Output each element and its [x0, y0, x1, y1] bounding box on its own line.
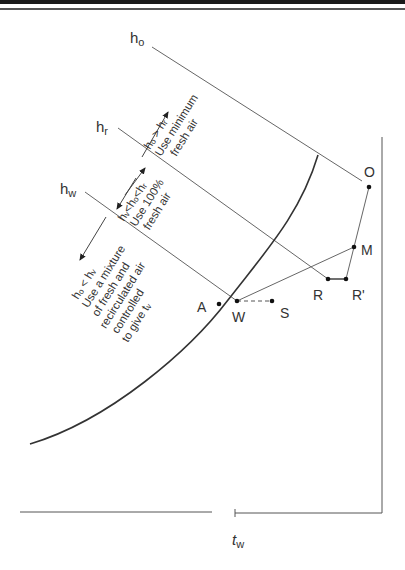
line-o-to-m [354, 187, 369, 247]
point-r [326, 277, 331, 282]
label-t-w: tw [232, 531, 244, 550]
point-o [367, 185, 372, 190]
label-s: S [280, 305, 289, 321]
point-a [217, 302, 222, 307]
point-s [270, 299, 275, 304]
point-r-prime [344, 277, 349, 282]
line-m-to-r-prime [346, 247, 354, 279]
psychrometric-diagram: ho hr hw O M R R' W S A tw hₒ > hᵣ Use m… [0, 0, 405, 570]
region-bottom-text: hₒ < hᵥ Use a mixture of fresh and recir… [64, 236, 171, 344]
label-m: M [361, 242, 373, 258]
label-a: A [197, 299, 207, 315]
arrow-bottom-region [80, 217, 106, 260]
label-r: R [313, 287, 323, 303]
point-m [352, 245, 357, 250]
label-w: W [232, 309, 246, 325]
label-h-w: hw [60, 180, 76, 199]
region-middle-text: hᵥ<hₒ<hᵣ Use 100% fresh air [116, 170, 177, 237]
label-h-o: ho [130, 29, 144, 48]
point-w [235, 299, 240, 304]
label-h-r: hr [96, 118, 108, 137]
label-r-prime: R' [352, 287, 365, 303]
label-o: O [364, 164, 375, 180]
